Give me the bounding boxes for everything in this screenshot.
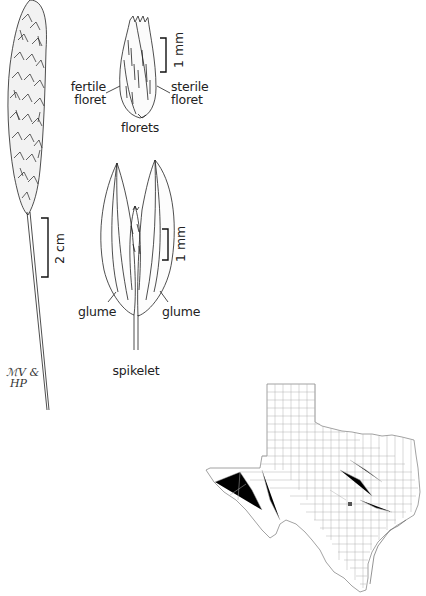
texas-distribution-map xyxy=(206,384,420,592)
scale-bar-1mm-florets xyxy=(160,38,166,72)
florets-title: florets xyxy=(110,121,170,134)
scale-bar-2cm xyxy=(41,218,48,277)
label-glume-left: glume xyxy=(78,305,116,318)
florets-scale-label: 1 mm xyxy=(171,32,186,68)
spikelet-title: spikelet xyxy=(106,364,166,377)
label-glume-right: glume xyxy=(162,305,200,318)
florets-drawing xyxy=(106,16,170,118)
spikelet-drawing xyxy=(101,160,174,350)
spikelet-scale-label: 1 mm xyxy=(173,226,188,262)
occurrence-dot xyxy=(348,502,352,506)
label-fertile-floret: fertile floret xyxy=(64,80,106,106)
label-fertile-line2: floret xyxy=(64,93,106,106)
inflorescence-scale-label: 2 cm xyxy=(52,233,67,264)
signature-line2: HP xyxy=(6,378,39,389)
label-sterile-floret: sterile floret xyxy=(171,80,208,106)
botanical-plate: fertile floret sterile floret florets 1 … xyxy=(0,0,426,596)
artist-signature: ℳV & HP xyxy=(6,367,39,389)
inflorescence-drawing xyxy=(8,0,47,215)
label-sterile-line2: floret xyxy=(171,93,208,106)
